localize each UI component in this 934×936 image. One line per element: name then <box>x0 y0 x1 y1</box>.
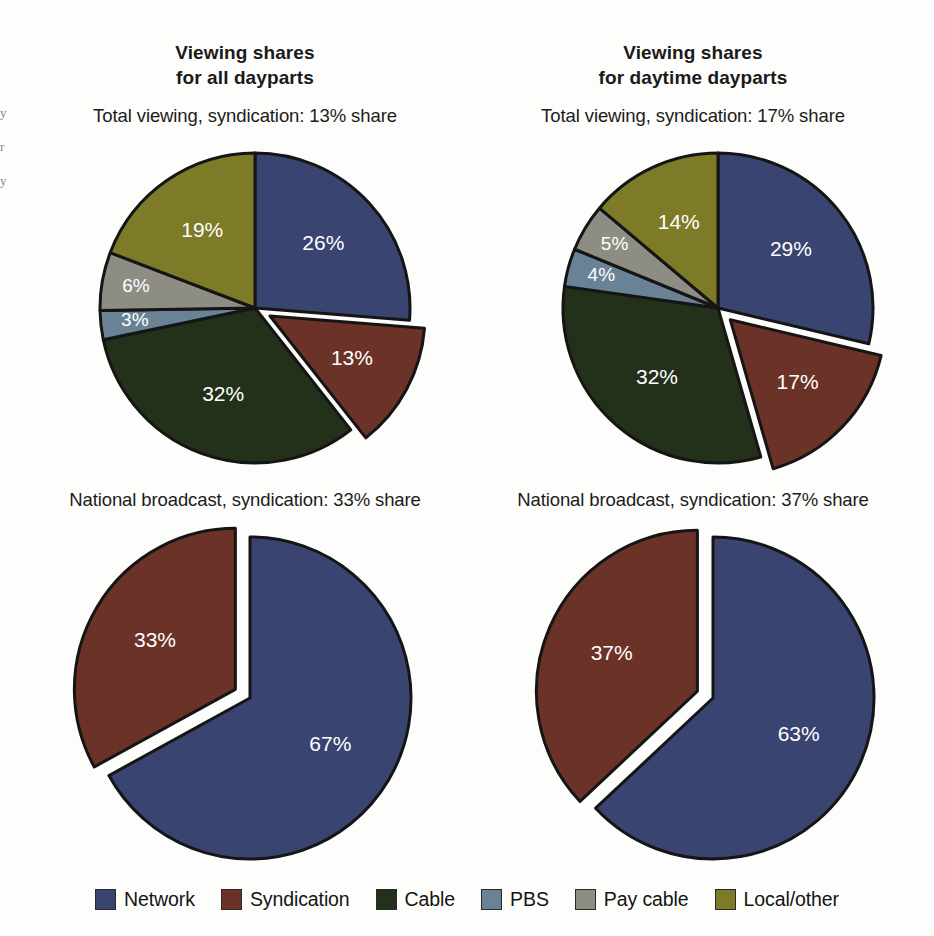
legend-label: Network <box>124 888 195 911</box>
pie-slice-label: 67% <box>309 732 351 755</box>
legend-label: Local/other <box>744 888 839 911</box>
legend-label: Pay cable <box>604 888 689 911</box>
column-title-right: Viewing shares for daytime dayparts <box>483 40 903 90</box>
column-title-right-line2: for daytime dayparts <box>483 65 903 90</box>
pie-chart-all-dayparts-national: 67%33% <box>70 518 430 878</box>
pie-svg: 63%37% <box>533 518 893 878</box>
pie-slice-label: 3% <box>121 309 149 330</box>
legend-swatch-icon <box>95 889 116 910</box>
column-title-left-line1: Viewing shares <box>35 40 455 65</box>
column-title-right-line1: Viewing shares <box>483 40 903 65</box>
chart-subtitle-bottom-left: National broadcast, syndication: 33% sha… <box>25 489 465 511</box>
chart-subtitle-bottom-right: National broadcast, syndication: 37% sha… <box>473 489 913 511</box>
legend-item-cable[interactable]: Cable <box>376 888 455 911</box>
pie-slice-label: 33% <box>134 628 176 651</box>
legend-item-network[interactable]: Network <box>95 888 195 911</box>
chart-subtitle-top-left: Total viewing, syndication: 13% share <box>25 105 465 127</box>
pie-slice-label: 17% <box>777 370 819 393</box>
pie-slice-label: 19% <box>181 218 223 241</box>
legend-swatch-icon <box>481 889 502 910</box>
chart-subtitle-top-right: Total viewing, syndication: 17% share <box>473 105 913 127</box>
pie-chart-all-dayparts-total: 26%13%32%3%6%19% <box>75 128 435 488</box>
pie-slice-label: 29% <box>770 237 812 260</box>
pie-slice-label: 13% <box>331 346 373 369</box>
scan-edge-artifacts: yry <box>0 96 14 216</box>
pie-slice-label: 32% <box>636 365 678 388</box>
pie-slice-label: 4% <box>588 264 616 285</box>
pie-slice-label: 6% <box>122 275 150 296</box>
legend-swatch-icon <box>376 889 397 910</box>
legend-label: PBS <box>510 888 549 911</box>
legend-swatch-icon <box>575 889 596 910</box>
pie-slice-label: 14% <box>658 210 700 233</box>
column-title-left-line2: for all dayparts <box>35 65 455 90</box>
legend-label: Cable <box>405 888 455 911</box>
pie-slice-label: 5% <box>601 233 629 254</box>
pie-slice-label: 63% <box>778 722 820 745</box>
pie-slice-label: 37% <box>591 641 633 664</box>
pie-svg: 29%17%32%4%5%14% <box>538 128 898 488</box>
pie-chart-daytime-dayparts-national: 63%37% <box>533 518 893 878</box>
pie-slice-label: 32% <box>202 382 244 405</box>
pie-svg: 26%13%32%3%6%19% <box>75 128 435 488</box>
pie-slice-label: 26% <box>302 231 344 254</box>
pie-svg: 67%33% <box>70 518 430 878</box>
legend-item-pbs[interactable]: PBS <box>481 888 549 911</box>
pie-chart-daytime-dayparts-total: 29%17%32%4%5%14% <box>538 128 898 488</box>
legend-item-pay-cable[interactable]: Pay cable <box>575 888 689 911</box>
legend-swatch-icon <box>715 889 736 910</box>
legend: NetworkSyndicationCablePBSPay cableLocal… <box>0 888 934 911</box>
column-title-left: Viewing shares for all dayparts <box>35 40 455 90</box>
legend-label: Syndication <box>250 888 350 911</box>
legend-item-syndication[interactable]: Syndication <box>221 888 350 911</box>
legend-swatch-icon <box>221 889 242 910</box>
legend-item-local-other[interactable]: Local/other <box>715 888 839 911</box>
